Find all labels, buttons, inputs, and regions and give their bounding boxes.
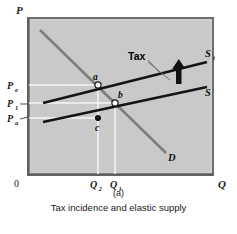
curve-label-supply: S <box>205 87 211 98</box>
price-tick-pe-base: P <box>7 80 14 91</box>
price-tick-pa-base: P <box>7 113 14 124</box>
tax-annotation-label: Tax <box>128 50 145 62</box>
point-label-a: a <box>93 72 98 82</box>
curve-label-supply-base: S <box>205 87 211 98</box>
price-tick-p1-base: P <box>7 98 14 109</box>
y-axis-label: P <box>16 4 23 16</box>
figure-root: P Q 0 P e P 1 P a Q 2 Q 1 D <box>0 0 237 234</box>
point-a-marker <box>95 82 101 88</box>
curve-label-supply-with-tax-sub: t <box>213 54 215 61</box>
point-b-marker <box>112 100 118 106</box>
curve-label-demand: D <box>167 152 176 163</box>
price-tick-pe-sub: e <box>15 86 18 93</box>
curve-label-supply-with-tax-base: S <box>205 48 211 59</box>
figure-caption: Tax incidence and elastic supply <box>0 202 237 214</box>
price-tick-p1-sub: 1 <box>15 104 18 111</box>
curve-label-demand-base: D <box>167 152 176 163</box>
economics-diagram: P Q 0 P e P 1 P a Q 2 Q 1 D <box>0 0 237 234</box>
price-tick-p1: P 1 <box>7 98 18 111</box>
point-c-marker <box>95 115 100 120</box>
price-tick-pe: P e <box>7 80 18 93</box>
tick-mark-pa <box>20 117 28 119</box>
price-tick-pa-sub: a <box>15 119 19 126</box>
point-label-b: b <box>118 90 123 100</box>
price-tick-pa: P a <box>7 113 19 126</box>
figure-panel-id: (a) <box>0 188 237 198</box>
